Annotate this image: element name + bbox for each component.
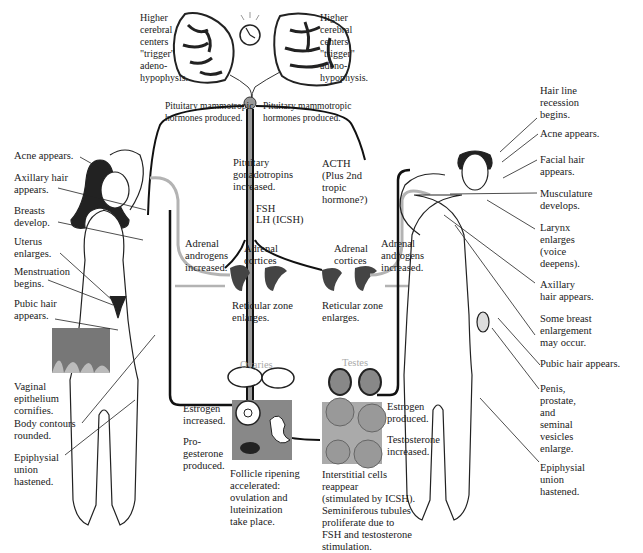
vaginal-epithelium-inset	[52, 328, 110, 373]
pituitary-right-label: Pituitary mammotropic hormones produced.	[263, 100, 351, 124]
female-breasts-label: Breasts develop.	[14, 205, 50, 229]
follicle-ripening-label: Follicle ripening accelerated: ovulation…	[230, 468, 300, 528]
progesterone-label: Pro- gesterone produced.	[183, 436, 225, 472]
female-acne-label: Acne appears.	[14, 150, 73, 162]
alarm-clock-icon	[240, 12, 260, 45]
male-axillary-hair-label: Axillary hair appears.	[540, 279, 594, 303]
male-larynx-label: Larynx enlarges (voice deepens).	[540, 222, 580, 270]
brain-left-label: Higher cerebral centers "trigger" adeno-…	[140, 12, 188, 84]
female-body-contours-label: Body contours rounded.	[14, 418, 76, 442]
left-adrenal-androgens-label: Adrenal androgens increased.	[185, 238, 228, 274]
testes-illustration	[329, 369, 381, 395]
acth-label: ACTH (Plus 2nd tropic hormone?)	[322, 158, 367, 206]
left-adrenal-cortices-label: Adrenal cortices	[244, 243, 278, 267]
female-epiphysial-label: Epiphysial union hastened.	[14, 452, 59, 488]
female-pubic-hair-label: Pubic hair appears.	[14, 298, 57, 322]
right-adrenal-glands	[322, 266, 377, 291]
right-adrenal-androgens-label: Adrenal androgens increased.	[381, 238, 424, 274]
male-acne-label: Acne appears.	[540, 128, 599, 140]
male-facial-hair-label: Facial hair appears.	[540, 154, 585, 178]
gonadotropins-label: Pituitary gonadotropins increased.	[233, 157, 293, 193]
male-hair-line-label: Hair line recession begins.	[540, 85, 579, 121]
male-epiphysial-label: Epiphysial union hastened.	[540, 462, 585, 498]
female-axillary-hair-label: Axillary hair appears.	[14, 172, 68, 196]
female-menstruation-label: Menstruation begins.	[14, 266, 70, 290]
male-musculature-label: Musculature develops.	[540, 188, 593, 212]
brain-right-label: Higher cerebral centers "trigger" adeno-…	[320, 12, 368, 84]
interstitial-cells-label: Interstitial cells reappear (stimulated …	[322, 469, 415, 553]
male-estrogen-label: Estrogen produced.	[387, 401, 429, 425]
right-adrenal-cortices-label: Adrenal cortices	[334, 243, 368, 267]
left-adrenal-glands	[230, 265, 287, 291]
male-figure	[400, 151, 492, 520]
female-estrogen-label: Estrogen increased.	[183, 403, 225, 427]
female-vaginal-epithelium-label: Vaginal epithelium cornifies.	[14, 381, 59, 417]
ovaries-title: Ovaries	[240, 359, 273, 371]
left-reticular-label: Reticular zone enlarges.	[232, 300, 293, 324]
male-pubic-hair-label: Pubic hair appears.	[540, 358, 620, 370]
follicle-illustration	[232, 400, 292, 460]
male-breast-enlargement-label: Some breast enlargement may occur.	[540, 313, 592, 349]
male-penis-prostate-label: Penis, prostate, and seminal vesicles en…	[540, 383, 576, 455]
female-uterus-label: Uterus enlarges.	[14, 236, 51, 260]
interstitial-cells-illustration	[322, 398, 386, 468]
lh-label: LH (ICSH)	[256, 214, 304, 226]
testes-title: Testes	[342, 357, 368, 369]
right-reticular-label: Reticular zone enlarges.	[322, 300, 383, 324]
pituitary-left-label: Pituitary mammotropic hormones produced.	[165, 100, 253, 124]
testosterone-label: Testosterone increased.	[387, 434, 440, 458]
